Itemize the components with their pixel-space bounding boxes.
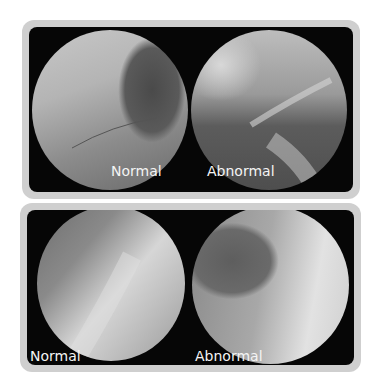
bottom-panel: Normal Abnormal — [20, 203, 361, 372]
top-normal-image — [32, 30, 188, 190]
top-panel: Normal Abnormal — [22, 20, 360, 199]
top-panel-inner: Normal Abnormal — [29, 27, 353, 192]
bottom-normal-label: Normal — [30, 348, 81, 364]
bottom-normal-image — [37, 210, 185, 361]
bottom-abnormal-image — [192, 210, 349, 364]
airway-icon — [37, 210, 185, 361]
spine-curve-icon — [32, 30, 188, 190]
bottom-abnormal-label: Abnormal — [195, 348, 263, 364]
top-abnormal-label: Abnormal — [207, 163, 275, 179]
bottom-panel-inner: Normal Abnormal — [27, 210, 354, 365]
top-normal-label: Normal — [111, 163, 162, 179]
